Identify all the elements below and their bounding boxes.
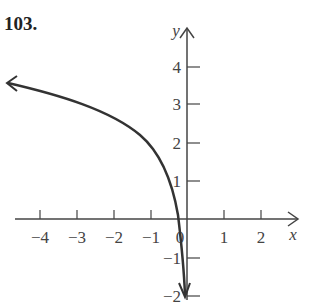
svg-text:1: 1 bbox=[220, 228, 229, 247]
svg-text:−1: −1 bbox=[142, 228, 160, 247]
x-ticks bbox=[40, 210, 261, 219]
svg-text:−1: −1 bbox=[163, 249, 181, 268]
y-ticks bbox=[187, 67, 200, 296]
svg-text:1: 1 bbox=[173, 172, 182, 191]
function-curve bbox=[8, 83, 185, 295]
svg-text:−3: −3 bbox=[68, 228, 86, 247]
graph: −4 −3 −2 −1 0 1 2 x 4 3 2 1 −1 −2 y bbox=[0, 0, 318, 308]
svg-text:−4: −4 bbox=[31, 228, 50, 247]
svg-text:2: 2 bbox=[257, 228, 266, 247]
svg-text:3: 3 bbox=[173, 95, 182, 114]
svg-text:y: y bbox=[170, 21, 180, 40]
svg-text:2: 2 bbox=[173, 134, 182, 153]
svg-text:4: 4 bbox=[173, 58, 182, 77]
svg-text:−2: −2 bbox=[105, 228, 123, 247]
svg-text:x: x bbox=[288, 225, 297, 244]
svg-text:−2: −2 bbox=[163, 287, 181, 306]
